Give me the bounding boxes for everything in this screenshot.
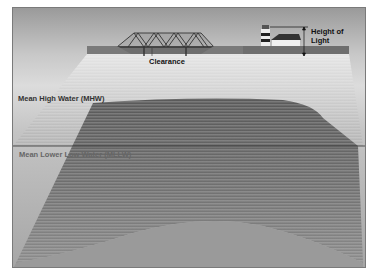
diagram-graphic (13, 8, 366, 268)
mhw-label: Mean High Water (MHW) (18, 94, 104, 103)
clearance-label: Clearance (149, 57, 185, 66)
height-of-light-line2: Light (311, 37, 351, 46)
house-icon (271, 34, 301, 46)
height-of-light-label: Height of Light (311, 28, 351, 45)
tidal-datum-diagram: Clearance Height of Light Mean High Wate… (12, 7, 366, 268)
mllw-label: Mean Lower Low Water (MLLW) (19, 150, 131, 159)
lighthouse-icon (261, 25, 270, 46)
